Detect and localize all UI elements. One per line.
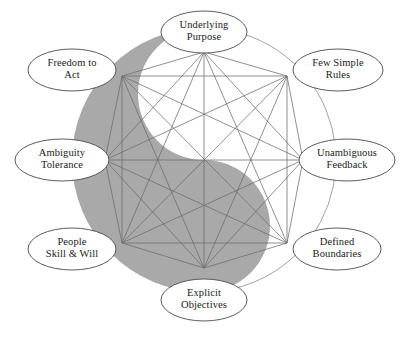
node-label-line: Skill & Will: [46, 248, 99, 259]
connection-line: [287, 160, 303, 243]
node-label-line: People: [57, 237, 86, 248]
node-label-line: Defined: [320, 237, 355, 248]
connection-line: [287, 76, 303, 160]
connection-line: [204, 52, 303, 160]
node-label-defined-boundaries: DefinedBoundaries: [313, 237, 362, 260]
yang-eye-white-dot: [187, 77, 213, 103]
node-freedom-to-act[interactable]: Freedom toAct: [28, 49, 116, 91]
node-few-simple-rules[interactable]: Few SimpleRules: [293, 49, 383, 91]
diagram-root: UnderlyingPurposeFew SimpleRulesUnambigu…: [0, 0, 408, 340]
node-explicit-objectives[interactable]: ExplicitObjectives: [161, 279, 247, 321]
node-label-line: Rules: [326, 69, 350, 80]
node-label-line: Explicit: [187, 288, 221, 299]
node-label-explicit-objectives: ExplicitObjectives: [181, 288, 227, 311]
connection-line: [204, 52, 287, 76]
node-label-ambiguity-tolerance: AmbiguityTolerance: [39, 148, 86, 171]
node-label-line: Purpose: [187, 31, 222, 42]
node-label-line: Objectives: [181, 299, 227, 310]
node-underlying-purpose[interactable]: UnderlyingPurpose: [161, 11, 247, 53]
node-label-line: Ambiguity: [39, 148, 86, 159]
node-unambiguous-feedback[interactable]: UnambiguousFeedback: [299, 139, 395, 181]
node-label-line: Act: [64, 69, 79, 80]
node-label-line: Unambiguous: [317, 148, 377, 159]
node-label-line: Underlying: [180, 20, 229, 31]
node-label-line: Boundaries: [313, 248, 362, 259]
node-people-skill-will[interactable]: PeopleSkill & Will: [28, 228, 116, 270]
node-ambiguity-tolerance[interactable]: AmbiguityTolerance: [15, 139, 109, 181]
node-label-line: Tolerance: [41, 159, 83, 170]
framework-diagram: UnderlyingPurposeFew SimpleRulesUnambigu…: [0, 0, 408, 340]
node-label-line: Freedom to: [47, 58, 96, 69]
node-defined-boundaries[interactable]: DefinedBoundaries: [293, 228, 381, 270]
node-label-line: Feedback: [326, 159, 368, 170]
node-label-line: Few Simple: [312, 58, 364, 69]
